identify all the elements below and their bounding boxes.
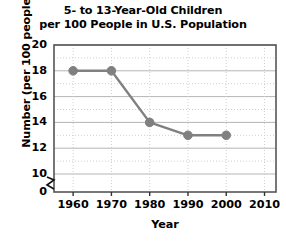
grid-minor bbox=[54, 58, 276, 161]
data-markers bbox=[69, 67, 231, 140]
data-point-marker bbox=[145, 118, 154, 127]
data-point-marker bbox=[107, 67, 116, 76]
x-tick-label: 1960 bbox=[53, 198, 93, 211]
y-tick-label: 16 bbox=[21, 90, 47, 103]
x-tick-label: 2000 bbox=[206, 198, 246, 211]
data-point-marker bbox=[184, 131, 193, 140]
x-tick-label: 1990 bbox=[168, 198, 208, 211]
y-tick-label: 12 bbox=[21, 141, 47, 154]
y-tick-label: 0 bbox=[21, 185, 47, 198]
y-tick-label: 20 bbox=[21, 38, 47, 51]
grid-vertical bbox=[73, 45, 264, 192]
plot-frame bbox=[54, 45, 276, 192]
line-chart: 5- to 13-Year-Old Children per 100 Peopl… bbox=[0, 0, 286, 241]
x-tick-label: 2010 bbox=[245, 198, 285, 211]
axis-frame bbox=[54, 45, 276, 192]
x-tick-label: 1970 bbox=[91, 198, 131, 211]
y-tick-label: 10 bbox=[21, 167, 47, 180]
y-axis-break-icon bbox=[47, 177, 54, 189]
y-tick-label: 14 bbox=[21, 115, 47, 128]
axis-break-zigzag bbox=[47, 177, 54, 189]
data-point-marker bbox=[222, 131, 231, 140]
x-tick-label: 1980 bbox=[130, 198, 170, 211]
y-tick-label: 18 bbox=[21, 64, 47, 77]
data-point-marker bbox=[69, 67, 78, 76]
